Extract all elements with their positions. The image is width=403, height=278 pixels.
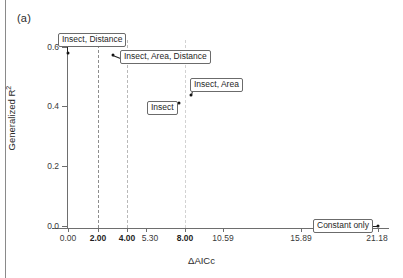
x-tick-label-10_59: 10.59: [212, 233, 233, 243]
reference-line-delta-4: [127, 40, 128, 228]
y-axis-line: [67, 44, 68, 229]
y-tick-mark-0_0: [62, 226, 67, 227]
x-tick-label-4: 4.00: [119, 233, 136, 243]
x-tick-label-0: 0.00: [60, 233, 77, 243]
y-axis-title-text: Generalized R: [6, 90, 17, 151]
callout-insect[interactable]: Insect: [147, 101, 178, 115]
x-tick-mark-5_30: [146, 228, 147, 232]
callout-insect-distance[interactable]: Insect, Distance: [58, 33, 126, 47]
y-tick-label: 0.4: [47, 101, 59, 111]
x-tick-mark-4: [127, 228, 128, 232]
callout-insect-area[interactable]: Insect, Area: [190, 78, 243, 92]
x-tick-mark-8: [185, 228, 186, 232]
y-tick-mark-0_2: [62, 166, 67, 167]
y-tick-mark-0_4: [62, 106, 67, 107]
reference-line-delta-2: [98, 40, 99, 228]
x-tick-label-8: 8.00: [177, 233, 194, 243]
x-tick-label-2: 2.00: [90, 233, 107, 243]
x-tick-mark-2: [98, 228, 99, 232]
x-tick-label-15_89: 15.89: [290, 233, 311, 243]
x-tick-mark-10_59: [223, 228, 224, 232]
x-axis-title: ΔAICc: [0, 255, 403, 266]
y-tick-label: 0.2: [47, 161, 59, 171]
x-tick-mark-21_18: [378, 228, 379, 232]
x-tick-label-5_30: 5.30: [142, 233, 159, 243]
x-tick-label-21_18: 21.18: [366, 233, 387, 243]
x-tick-mark-15_89: [301, 228, 302, 232]
y-tick-label: 0.0: [47, 221, 59, 231]
reference-line-delta-8: [185, 40, 186, 228]
callout-insect-area-distance[interactable]: Insect, Area, Distance: [120, 50, 211, 64]
y-axis-title: Generalized R2: [5, 63, 17, 173]
panel-label: (a): [17, 12, 31, 24]
x-tick-mark-0: [68, 228, 69, 232]
callout-constant-only[interactable]: Constant only: [313, 219, 373, 233]
y-axis-title-superscript: 2: [5, 86, 12, 90]
figure-panel-a: (a) 0.6 0.4 0.2 0.0 0.00 2.00 4.00 5.30 …: [0, 0, 403, 278]
